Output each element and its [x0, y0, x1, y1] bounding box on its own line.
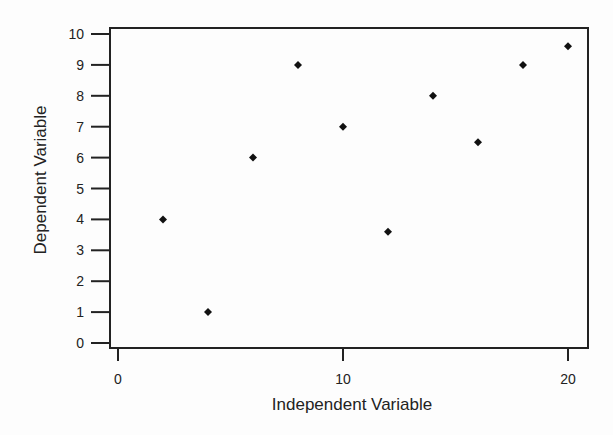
diamond-marker-icon	[384, 228, 392, 236]
y-tick-label: 4	[76, 211, 84, 227]
diamond-marker-icon	[159, 215, 167, 223]
y-tick-label: 9	[76, 57, 84, 73]
y-tick-label: 10	[68, 26, 84, 42]
diamond-marker-icon	[429, 92, 437, 100]
plot-frame	[110, 28, 588, 348]
y-tick-label: 0	[76, 335, 84, 351]
y-tick-label: 1	[76, 304, 84, 320]
x-tick-label: 20	[560, 371, 576, 387]
diamond-marker-icon	[249, 154, 257, 162]
y-tick-label: 8	[76, 88, 84, 104]
y-tick-label: 5	[76, 181, 84, 197]
x-tick-label: 10	[335, 371, 351, 387]
diamond-marker-icon	[564, 42, 572, 50]
y-tick-label: 2	[76, 273, 84, 289]
diamond-marker-icon	[519, 61, 527, 69]
x-axis: 01020	[114, 348, 576, 387]
scatter-chart: 012345678910 01020 Independent Variable …	[0, 0, 613, 435]
diamond-marker-icon	[339, 123, 347, 131]
y-axis: 012345678910	[68, 26, 110, 351]
data-points	[159, 42, 572, 316]
x-tick-label: 0	[114, 371, 122, 387]
y-tick-label: 3	[76, 242, 84, 258]
x-axis-label: Independent Variable	[272, 395, 432, 414]
diamond-marker-icon	[204, 308, 212, 316]
y-axis-label: Dependent Variable	[31, 105, 50, 254]
y-tick-label: 6	[76, 150, 84, 166]
diamond-marker-icon	[294, 61, 302, 69]
diamond-marker-icon	[474, 138, 482, 146]
y-tick-label: 7	[76, 119, 84, 135]
